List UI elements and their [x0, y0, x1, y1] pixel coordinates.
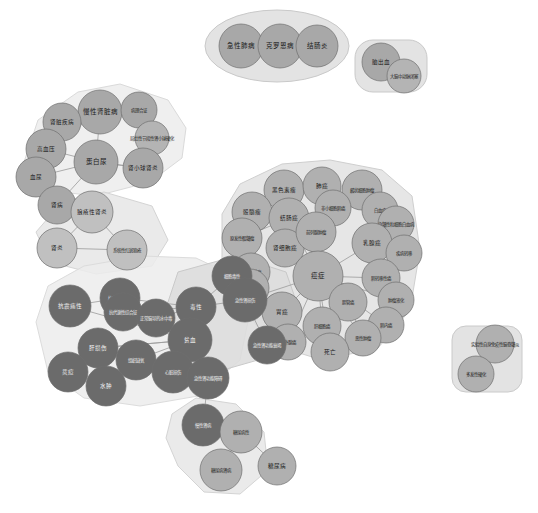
node-circle[interactable] [49, 285, 91, 327]
graph-node[interactable]: 肾病 [38, 186, 76, 224]
graph-node[interactable]: 原发性骰髓瘤 [222, 218, 262, 258]
node-circle[interactable] [258, 24, 302, 68]
graph-node[interactable]: 抗代谢性综合征 [104, 293, 142, 331]
graph-node[interactable]: 糖尿病性 [220, 411, 262, 453]
graph-node[interactable]: 糖尿病肾病 [200, 449, 242, 491]
node-circle[interactable] [123, 148, 163, 188]
graph-node[interactable]: 正常脑导的水中毒 [137, 299, 175, 337]
graph-node[interactable]: 慢性肾病 [182, 404, 224, 446]
graph-node[interactable]: 蛋白尿 [74, 140, 118, 184]
node-circle[interactable] [107, 230, 147, 270]
graph-svg: 急性肺病克罗恩病结肠炎脑出血大脑中动脉闭塞慢性肾脏病肾脏疾病病理合证局灶性节段性… [0, 0, 538, 513]
graph-node[interactable]: 乳腺癌 [352, 223, 392, 263]
node-circle[interactable] [222, 218, 262, 258]
node-circle[interactable] [104, 293, 142, 331]
graph-node[interactable]: 水肿 [86, 366, 126, 406]
graph-node[interactable]: 前列腺肿瘤 [296, 212, 336, 252]
graph-node[interactable]: 抗震痛性 [49, 285, 91, 327]
node-circle[interactable] [311, 333, 349, 371]
node-circle[interactable] [37, 228, 77, 268]
graph-node[interactable]: 急性肾功能衰竭 [248, 326, 286, 364]
graph-node[interactable]: 结肠炎 [296, 25, 338, 67]
node-circle[interactable] [71, 191, 113, 233]
graph-node[interactable]: 系统性红斑狼疮 [107, 230, 147, 270]
node-circle[interactable] [248, 326, 286, 364]
node-circle[interactable] [187, 357, 229, 399]
graph-node[interactable]: 死亡 [311, 333, 349, 371]
node-circle[interactable] [345, 320, 381, 356]
graph-node[interactable]: 克罗恩病 [258, 24, 302, 68]
node-circle[interactable] [74, 140, 118, 184]
node-circle[interactable] [219, 24, 263, 68]
graph-node[interactable]: 狼疮性肾炎 [71, 191, 113, 233]
node-circle[interactable] [458, 356, 494, 392]
graph-node[interactable]: 大脑中动脉闭塞 [387, 59, 421, 93]
node-circle[interactable] [86, 366, 126, 406]
node-circle[interactable] [200, 449, 242, 491]
node-circle[interactable] [223, 278, 267, 322]
graph-node[interactable]: 急性肺病 [219, 24, 263, 68]
node-circle[interactable] [296, 25, 338, 67]
graph-node[interactable]: 多发性硬化 [458, 356, 494, 392]
graph-node[interactable]: 肾小球肾炎 [123, 148, 163, 188]
node-circle[interactable] [352, 223, 392, 263]
graph-node[interactable]: 恶性肿瘤 [345, 320, 381, 356]
knowledge-graph-canvas: 急性肺病克罗恩病结肠炎脑出血大脑中动脉闭塞慢性肾脏病肾脏疾病病理合证局灶性节段性… [0, 0, 538, 513]
graph-node[interactable]: 肾炎 [37, 228, 77, 268]
graph-node[interactable]: 急性肾损伤 [223, 278, 267, 322]
node-circle[interactable] [48, 352, 88, 392]
graph-node[interactable]: 糖尿病 [258, 447, 296, 485]
node-circle[interactable] [78, 90, 122, 134]
node-circle[interactable] [38, 186, 76, 224]
node-circle[interactable] [258, 447, 296, 485]
node-circle[interactable] [296, 212, 336, 252]
node-circle[interactable] [220, 411, 262, 453]
node-circle[interactable] [137, 299, 175, 337]
node-circle[interactable] [387, 59, 421, 93]
graph-node[interactable]: 慢性肾脏病 [78, 90, 122, 134]
node-circle[interactable] [182, 404, 224, 446]
graph-node[interactable]: 烎痘 [48, 352, 88, 392]
graph-node[interactable]: 急性肾功能障碍 [187, 357, 229, 399]
